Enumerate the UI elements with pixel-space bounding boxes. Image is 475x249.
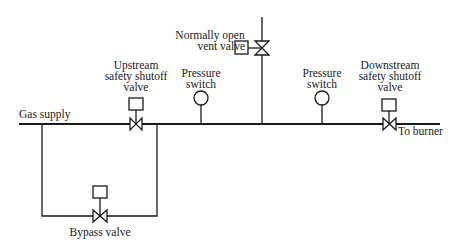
upstream-valve-label: Upstream safety shutoff valve bbox=[96, 60, 176, 93]
gas-supply-label: Gas supply bbox=[19, 109, 70, 120]
downstream-valve-label-line-3: valve bbox=[350, 82, 430, 93]
pressure-switch-1-icon bbox=[194, 91, 208, 124]
pressure-switch-2-icon bbox=[315, 91, 329, 124]
pressure-switch-2-label: Pressure switch bbox=[297, 68, 347, 90]
downstream-valve-label: Downstream safety shutoff valve bbox=[350, 60, 430, 93]
pressure-switch-1-label-line-2: switch bbox=[176, 79, 226, 90]
pressure-switch-1-label: Pressure switch bbox=[176, 68, 226, 90]
vent-valve-label-line-2: vent valve bbox=[170, 41, 250, 52]
upstream-valve-label-line-3: valve bbox=[96, 82, 176, 93]
pressure-switch-2-label-line-2: switch bbox=[297, 79, 347, 90]
bypass-valve-label: Bypass valve bbox=[60, 227, 140, 238]
gas-valve-train-diagram: Gas supply To burner Upstream safety shu… bbox=[0, 0, 475, 249]
vent-valve-label: Normally open vent valve bbox=[170, 30, 250, 52]
bypass-pipe-right bbox=[107, 124, 157, 216]
to-burner-label: To burner bbox=[398, 126, 443, 137]
bypass-valve-icon bbox=[93, 186, 107, 222]
upstream-valve-icon bbox=[129, 98, 143, 130]
downstream-valve-icon bbox=[382, 99, 396, 130]
bypass-pipe-left bbox=[42, 124, 93, 216]
